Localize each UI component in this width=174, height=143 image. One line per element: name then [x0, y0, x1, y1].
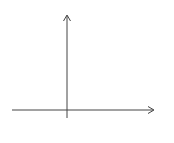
y-axis [64, 15, 71, 118]
x-axis [12, 107, 154, 114]
graph-figure [0, 0, 174, 143]
